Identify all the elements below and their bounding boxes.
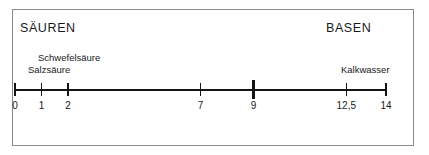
acids-heading: SÄUREN [20, 21, 76, 35]
ph-tick-label-14: 14 [380, 100, 391, 111]
bases-heading: BASEN [326, 21, 371, 35]
substance-label-sulfuric-acid: Schwefelsäure [38, 52, 100, 63]
ph-tick-7 [200, 83, 202, 96]
ph-tick-2 [67, 83, 69, 96]
ph-scale-figure: SÄUREN BASEN Schwefelsäure Salzsäure Kal… [0, 0, 429, 155]
substance-label-hydrochloric-acid: Salzsäure [28, 64, 70, 75]
ph-tick-label-12-5: 12,5 [337, 100, 356, 111]
ph-tick-0 [14, 83, 16, 96]
ph-tick-12-5 [346, 83, 348, 96]
ph-tick-label-2: 2 [65, 100, 71, 111]
ph-tick-label-1: 1 [39, 100, 45, 111]
substance-label-limewater: Kalkwasser [341, 64, 390, 75]
ph-tick-14 [385, 83, 387, 96]
ph-tick-label-7: 7 [198, 100, 204, 111]
ph-tick-label-9: 9 [251, 100, 257, 111]
ph-tick-label-0: 0 [12, 100, 18, 111]
ph-tick-1 [41, 83, 43, 96]
ph-tick-9 [252, 80, 255, 99]
ph-range-row: sauer neutral alkalisch [0, 120, 429, 136]
